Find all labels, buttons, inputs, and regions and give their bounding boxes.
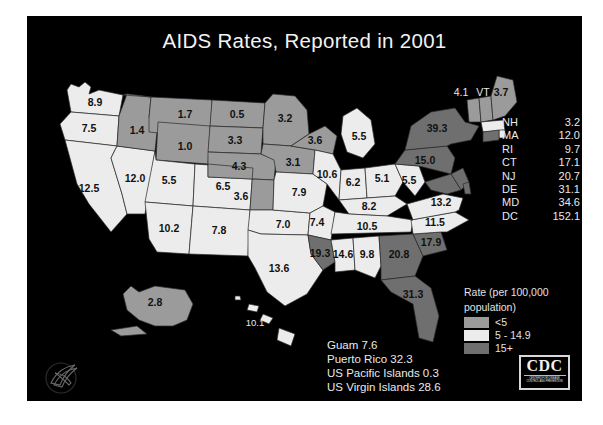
- ne-rate-row: NJ20.7: [502, 170, 580, 183]
- legend-swatch: [464, 343, 489, 354]
- ne-state-abbr: MA: [502, 129, 536, 142]
- label-UT: 5.5: [162, 174, 177, 186]
- ne-state-value: 20.7: [536, 170, 580, 183]
- ne-state-abbr: DC: [502, 210, 536, 223]
- page-title: AIDS Rates, Reported in 2001: [27, 29, 582, 53]
- state-AK[interactable]: [111, 286, 193, 336]
- label-SC: 17.9: [421, 236, 442, 248]
- legend-label: 15+: [495, 342, 513, 354]
- ne-state-abbr: RI: [502, 143, 536, 156]
- cdc-logo: CDC CENTERS FOR DISEASE CONTROL AND PREV…: [519, 355, 570, 390]
- ne-state-value: 17.1: [536, 156, 580, 169]
- label-OH: 5.1: [375, 172, 390, 184]
- label-NY: 39.3: [427, 122, 448, 134]
- map-legend: Rate (per 100,000 population) <55 - 14.9…: [464, 286, 569, 355]
- northeast-rate-list: NH3.2MA12.0RI9.7CT17.1NJ20.7DE31.1MD34.6…: [502, 116, 580, 223]
- territory-rate-list: Guam 7.6Puerto Rico 32.3US Pacific Islan…: [327, 338, 441, 394]
- legend-item: 15+: [464, 342, 569, 354]
- label-MI: 5.5: [352, 130, 367, 142]
- label-LA: 19.3: [310, 247, 331, 259]
- label-WV: 5.5: [402, 174, 417, 186]
- ne-rate-row: MD34.6: [502, 196, 580, 209]
- ne-rate-row: NH3.2: [502, 116, 580, 129]
- label-FL: 31.3: [403, 288, 424, 300]
- label-IN: 6.2: [346, 176, 361, 188]
- ne-state-abbr: DE: [502, 183, 536, 196]
- territory-row: Guam 7.6: [327, 338, 441, 352]
- state-NH[interactable]: [479, 96, 493, 122]
- legend-item: <5: [464, 316, 569, 328]
- slide-canvas: AIDS Rates, Reported in 2001: [27, 16, 582, 401]
- legend-title-line2: population): [464, 301, 569, 313]
- legend-title-line1: Rate (per 100,000: [464, 286, 569, 298]
- ne-state-abbr: MD: [502, 196, 536, 209]
- label-OK: 7.0: [276, 218, 291, 230]
- label-CO: 6.5: [216, 180, 231, 192]
- label-SD: 3.3: [228, 134, 243, 146]
- ne-state-value: 3.2: [536, 116, 580, 129]
- ne-rate-row: RI9.7: [502, 143, 580, 156]
- label-MS: 14.6: [333, 248, 354, 260]
- territory-row: US Pacific Islands 0.3: [327, 366, 441, 380]
- state-ME[interactable]: [491, 76, 517, 120]
- label-KY: 8.2: [362, 200, 377, 212]
- label-MO: 7.9: [292, 186, 307, 198]
- label-NC: 11.5: [425, 216, 445, 228]
- territory-row: Puerto Rico 32.3: [327, 352, 441, 366]
- ne-state-abbr: NH: [502, 116, 536, 129]
- label-ID: 1.4: [130, 124, 145, 136]
- ne-state-value: 9.7: [536, 143, 580, 156]
- territory-row: US Virgin Islands 28.6: [327, 380, 441, 394]
- label-AR: 7.4: [310, 216, 325, 228]
- label-NV: 12.0: [125, 172, 146, 184]
- label-AL: 9.8: [360, 248, 375, 260]
- label-NM: 7.8: [212, 224, 227, 236]
- ne-state-abbr: NJ: [502, 170, 536, 183]
- ne-rate-row: MA12.0: [502, 129, 580, 142]
- ne-state-value: 12.0: [536, 129, 580, 142]
- legend-swatch: [464, 317, 489, 328]
- label-CA: 12.5: [79, 182, 100, 194]
- label-WA: 8.9: [88, 96, 103, 108]
- label-PA: 15.0: [415, 154, 436, 166]
- label-MT: 1.7: [178, 108, 193, 120]
- hhs-logo: [41, 361, 87, 395]
- label-MN: 3.2: [278, 112, 293, 124]
- ne-rate-row: DE31.1: [502, 183, 580, 196]
- ne-state-value: 34.6: [536, 196, 580, 209]
- ne-state-value: 31.1: [536, 183, 580, 196]
- label-KS: 3.6: [234, 190, 249, 202]
- ne-rate-row: CT17.1: [502, 156, 580, 169]
- state-DE[interactable]: [463, 182, 471, 194]
- label-WY: 1.0: [178, 140, 193, 152]
- ne-rate-row: DC152.1: [502, 210, 580, 223]
- cdc-logo-text: CDC: [526, 357, 562, 375]
- label-VT-abbr: VT: [476, 86, 490, 98]
- legend-swatch: [464, 330, 489, 341]
- legend-label: 5 - 14.9: [495, 329, 531, 341]
- label-IL: 10.6: [317, 168, 338, 180]
- legend-item: 5 - 14.9: [464, 329, 569, 341]
- ne-state-value: 152.1: [536, 210, 580, 223]
- label-VA: 13.2: [431, 196, 452, 208]
- label-HI: 10.1: [246, 317, 265, 328]
- cdc-logo-subtext: CENTERS FOR DISEASE CONTROL AND PREVENTI…: [524, 375, 566, 383]
- label-TN: 10.5: [357, 220, 378, 232]
- legend-label: <5: [495, 316, 507, 328]
- label-WI: 3.6: [308, 134, 323, 146]
- legend-rows: <55 - 14.915+: [464, 316, 569, 354]
- label-AZ: 10.2: [159, 222, 180, 234]
- label-GA: 20.8: [389, 248, 410, 260]
- label-AK: 2.8: [148, 296, 163, 308]
- state-CT[interactable]: [483, 130, 499, 142]
- label-NE: 4.3: [232, 160, 247, 172]
- label-OR: 7.5: [82, 122, 97, 134]
- label-ND: 0.5: [230, 108, 245, 120]
- state-VT[interactable]: [467, 98, 481, 122]
- label-IA: 3.1: [286, 156, 301, 168]
- state-FL[interactable]: [381, 276, 439, 342]
- label-ME: 3.7: [494, 86, 509, 98]
- label-TX: 13.6: [269, 262, 290, 274]
- label-VT-rate: 4.1: [454, 86, 469, 98]
- ne-state-abbr: CT: [502, 156, 536, 169]
